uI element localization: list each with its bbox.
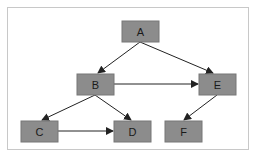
node-c-label: C (36, 126, 44, 138)
node-f[interactable]: F (165, 121, 202, 142)
graph-canvas: A B E C D F (0, 0, 255, 157)
node-d[interactable]: D (114, 121, 151, 142)
node-b[interactable]: B (77, 74, 114, 95)
edge-b-c (42, 95, 95, 120)
edge-b-d (95, 95, 131, 120)
node-f-label: F (180, 126, 187, 138)
node-d-label: D (129, 126, 137, 138)
node-b-label: B (92, 79, 99, 91)
edge-e-f (184, 95, 217, 120)
node-a-label: A (137, 26, 145, 38)
edge-a-b (98, 42, 140, 73)
node-e[interactable]: E (199, 74, 236, 95)
node-c[interactable]: C (21, 121, 58, 142)
node-a[interactable]: A (122, 21, 159, 42)
edge-a-e (140, 42, 213, 73)
node-e-label: E (214, 79, 221, 91)
